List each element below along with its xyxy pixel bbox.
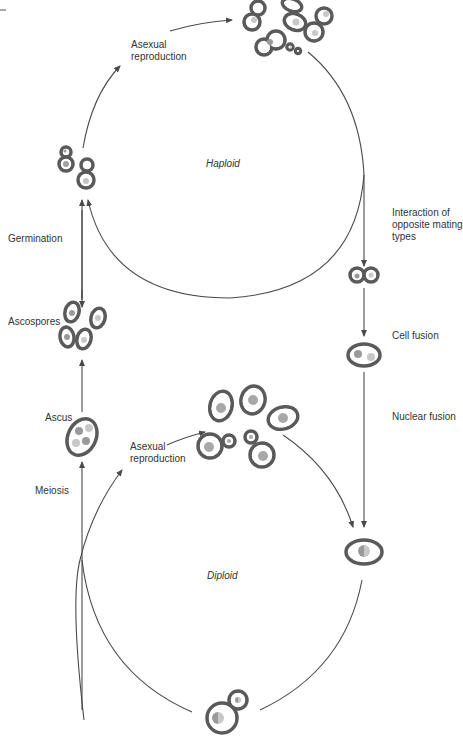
- label-germination: Germination: [8, 233, 62, 245]
- label-meiosis: Meiosis: [35, 485, 69, 497]
- diploid-cell-colony-icon: [198, 383, 300, 467]
- label-cell-fusion: Cell fusion: [392, 330, 439, 342]
- label-haploid: Haploid: [206, 158, 240, 170]
- label-diploid: Diploid: [207, 570, 238, 582]
- haploid-cell-colony-icon: [244, 0, 332, 55]
- label-asexual-reproduction-diploid: Asexual reproduction: [130, 441, 186, 465]
- fused-cell-two-nuclei-icon: [348, 344, 380, 366]
- ascospores-icon: [58, 301, 107, 351]
- diploid-cell-icon: [346, 540, 382, 564]
- label-asexual-reproduction-haploid: Asexual reproduction: [131, 39, 187, 63]
- label-nuclear-fusion: Nuclear fusion: [392, 411, 456, 423]
- label-ascus: Ascus: [45, 412, 72, 424]
- label-ascospores: Ascospores: [8, 316, 60, 328]
- mating-pair-cells-icon: [350, 268, 378, 282]
- budding-haploid-cells-icon: [59, 147, 94, 188]
- diploid-budding-cell-icon: [207, 691, 247, 733]
- label-interaction-mating-types: Interaction of opposite mating types: [392, 207, 463, 243]
